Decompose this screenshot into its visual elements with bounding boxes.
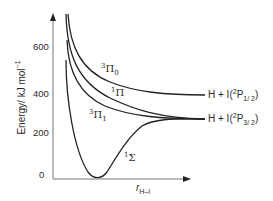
x-axis-label: rH–I — [136, 183, 150, 193]
state-symbol: Π — [105, 63, 114, 74]
y-axis-label-text: Energy/ kJ mol — [16, 68, 27, 134]
asymptote-close: ) — [255, 113, 258, 124]
state-label-3pi1: 3Π1 — [89, 110, 107, 120]
y-tick-0: 0 — [39, 170, 44, 180]
asymptote-text: H + I( — [208, 113, 233, 124]
state-omega: 1 — [102, 115, 106, 123]
state-label-3pi0: 3Π0 — [101, 64, 119, 74]
state-symbol: Π — [115, 87, 124, 98]
y-axis-arrow-icon — [50, 13, 56, 21]
y-axis-label: Energy/ kJ mol−1 — [16, 43, 27, 153]
y-tick-200: 200 — [33, 128, 49, 138]
y-axis-label-exponent: −1 — [14, 60, 21, 68]
asymptote-close: ) — [255, 89, 258, 100]
state-label-1pi: 1Π — [111, 88, 124, 98]
potential-energy-diagram: 600 400 200 0 Energy/ kJ mol−1 rH–I 3Π0 … — [0, 0, 273, 201]
asymptote-text: H + I( — [208, 89, 233, 100]
x-axis-arrow-icon — [183, 176, 191, 182]
curve-3pi1 — [67, 40, 205, 119]
asymptote-label-lower: H + I(2P3/ 2) — [208, 114, 258, 124]
state-label-1sigma: 1Σ — [124, 153, 136, 163]
state-symbol: Σ — [128, 152, 135, 163]
state-symbol: Π — [93, 109, 102, 120]
asymptote-label-upper: H + I(2P1/ 2) — [208, 90, 258, 100]
asymptote-sub: 3/ 2 — [243, 119, 255, 126]
x-axis-label-subscript: H–I — [139, 188, 150, 195]
y-tick-600: 600 — [33, 42, 49, 52]
asymptote-sub: 1/ 2 — [243, 95, 255, 102]
y-tick-400: 400 — [33, 89, 49, 99]
state-omega: 0 — [114, 69, 118, 77]
